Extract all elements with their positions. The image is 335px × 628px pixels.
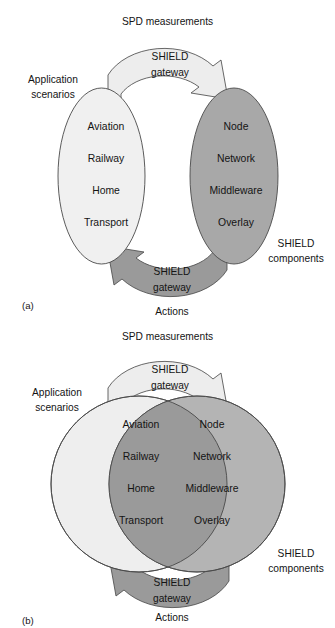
shield-components-label-line1-b: SHIELD [278,548,315,559]
top-gateway-label-line1-a: SHIELD [152,51,189,62]
application-scenarios-label-line1-b: Application [32,387,82,398]
left-item-0-b: Aviation [123,419,160,430]
left-item-0-a: Aviation [88,121,125,132]
right-item-0-b: Node [200,419,225,430]
caption-a-wrap: (a) [0,295,335,317]
bottom-gateway-label-line2-a: gateway [153,282,192,293]
application-scenarios-ellipse-a [58,88,145,264]
right-item-0-a: Node [224,121,249,132]
right-item-1-a: Network [217,153,256,164]
right-item-2-a: Middleware [209,185,262,196]
top-gateway-label-line1-b: SHIELD [152,364,189,375]
figure-a: SPD measurements SHIELD gateway Applicat… [0,0,335,318]
left-item-3-b: Transport [119,515,163,526]
left-item-1-a: Railway [88,153,125,164]
right-item-3-a: Overlay [218,217,255,228]
right-item-2-b: Middleware [185,483,238,494]
left-item-3-a: Transport [84,217,128,228]
left-item-2-b: Home [127,483,155,494]
shield-components-label-line2-b: components [268,563,324,574]
left-item-1-b: Railway [123,451,160,462]
left-item-2-a: Home [92,185,120,196]
caption-b-wrap: (b) [0,614,335,628]
right-item-3-b: Overlay [194,515,231,526]
shield-components-label-line1-a: SHIELD [278,238,315,249]
spd-measurements-label-b: SPD measurements [122,331,213,342]
bottom-gateway-label-line1-b: SHIELD [154,577,191,588]
right-item-1-b: Network [193,451,232,462]
figure-b: SPD measurements SHIELD gateway Applicat… [0,318,335,624]
spd-measurements-label-a: SPD measurements [122,16,213,27]
figure-caption-b: (b) [22,615,34,626]
top-gateway-label-line2-a: gateway [151,67,190,78]
figure-caption-a: (a) [22,300,34,311]
application-scenarios-label-line2-b: scenarios [35,402,79,413]
application-scenarios-label-line1-a: Application [28,74,78,85]
shield-components-label-line2-a: components [268,253,324,264]
bottom-gateway-label-line1-a: SHIELD [154,266,191,277]
bottom-gateway-label-line2-b: gateway [153,593,192,604]
shield-components-ellipse-a [190,88,278,264]
top-gateway-label-line2-b: gateway [151,380,190,391]
application-scenarios-label-line2-a: scenarios [31,89,75,100]
